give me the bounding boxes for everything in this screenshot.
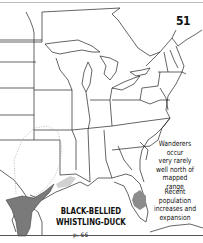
species-title: BLACK-BELLIED WHISTLING-DUCK (48, 206, 134, 227)
wanderers-note: Wanderers occur very rarely well north o… (153, 140, 197, 192)
species-title-line1: BLACK-BELLIED (48, 206, 134, 217)
note-line: expansion (153, 214, 197, 223)
plate-number: 51 (176, 14, 190, 28)
species-title-line2: WHISTLING-DUCK (48, 217, 134, 228)
range-map-plate: 51 Wanderers occur very rarely well nort… (0, 0, 203, 243)
expansion-note: Recent population increases and expansio… (153, 188, 197, 222)
bottom-border (0, 235, 203, 236)
